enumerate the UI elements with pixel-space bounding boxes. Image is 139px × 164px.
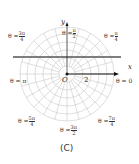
angle-label-3pi2: θ =3π2: [60, 125, 77, 136]
origin-label: O: [62, 76, 68, 84]
tick-2-label: 2: [84, 76, 88, 84]
angle-label-pi2: θ =π2: [62, 28, 76, 39]
angle-label-pi: θ = π: [10, 78, 26, 84]
y-axis-label: y: [61, 18, 65, 26]
figure-caption: (C): [60, 143, 73, 153]
angle-label-3pi4: θ =3π4: [8, 31, 25, 42]
x-axis-label: x: [128, 63, 132, 71]
angle-label-7pi4: θ =7π4: [98, 116, 115, 127]
angle-label-0: θ = 0: [116, 78, 132, 84]
angle-label-5pi4: θ =5π4: [18, 116, 35, 127]
angle-label-pi4: θ =π4: [104, 31, 118, 42]
